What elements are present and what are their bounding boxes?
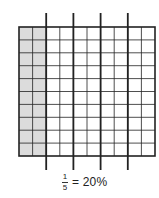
fraction-numerator: 1: [63, 173, 67, 181]
caption: 1 5 = 20%: [62, 172, 107, 192]
percent-equation: = 20%: [72, 175, 107, 189]
fraction: 1 5: [62, 173, 68, 192]
hundred-grid-diagram: [0, 0, 159, 198]
fraction-denominator: 5: [63, 184, 67, 192]
